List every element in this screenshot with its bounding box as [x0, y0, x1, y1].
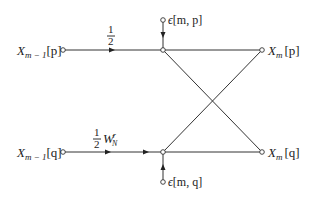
bottom-noise-node — [161, 180, 166, 185]
top-input-label: Xm − 1[p] — [16, 43, 62, 60]
bottom-gain-denominator: 2 — [94, 138, 100, 150]
butterfly-diagram: Xm − 1[p] Xm − 1[q] Xm[p] Xm[q] 1 2 1 2 … — [0, 0, 314, 197]
top-gain-numerator: 1 — [108, 23, 114, 35]
top-noise-label: ϵ[m, p] — [168, 13, 202, 27]
bottom-output-label: Xm[q] — [267, 145, 300, 162]
top-gain-arrow-icon — [109, 48, 115, 53]
bottom-gain-arrow-icon — [105, 150, 111, 155]
top-noise-arrow-icon — [161, 32, 166, 38]
top-output-label: Xm[p] — [267, 43, 300, 60]
bottom-noise-label: ϵ[m, q] — [168, 175, 202, 189]
bottom-gain-twiddle: WrN — [103, 131, 118, 148]
bottom-sum-arrow-icon — [143, 150, 149, 155]
bottom-output-node — [260, 150, 265, 155]
bottom-sum-node — [161, 150, 166, 155]
top-gain-denominator: 2 — [108, 35, 114, 47]
bottom-gain-numerator: 1 — [94, 126, 100, 138]
bottom-noise-arrow-icon — [161, 164, 166, 170]
top-noise-node — [161, 18, 166, 23]
top-sum-node — [161, 48, 166, 53]
bottom-input-label: Xm − 1[q] — [16, 145, 62, 162]
top-output-node — [260, 48, 265, 53]
